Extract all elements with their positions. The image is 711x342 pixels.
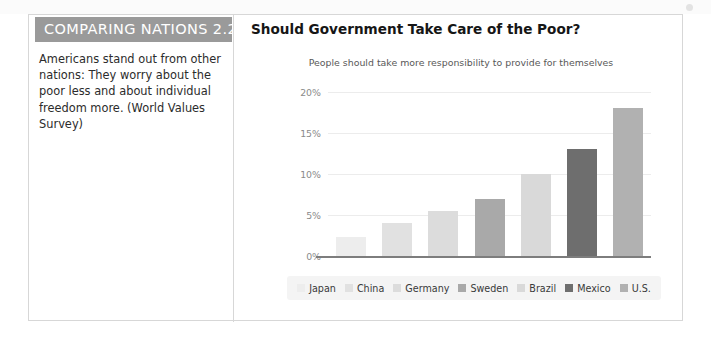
legend-swatch-icon bbox=[517, 284, 525, 292]
x-axis-baseline bbox=[316, 256, 651, 258]
legend-swatch-icon bbox=[458, 284, 466, 292]
legend-swatch-icon bbox=[345, 284, 353, 292]
legend-swatch-icon bbox=[565, 284, 573, 292]
legend-item-mexico[interactable]: Mexico bbox=[565, 283, 611, 294]
y-axis-tick-label: 5% bbox=[306, 210, 321, 221]
gridline bbox=[328, 133, 651, 134]
gridline bbox=[328, 92, 651, 93]
chart-subtitle: People should take more responsibility t… bbox=[276, 57, 646, 70]
legend-swatch-icon bbox=[393, 284, 401, 292]
bar-sweden bbox=[475, 199, 505, 256]
legend-label: Mexico bbox=[577, 283, 611, 294]
legend-swatch-icon bbox=[297, 284, 305, 292]
bar-brazil bbox=[521, 174, 551, 256]
comparing-nations-header: COMPARING NATIONS 2.2 bbox=[35, 17, 232, 42]
bar-u-s bbox=[613, 108, 643, 256]
bar-japan bbox=[336, 237, 366, 256]
legend-label: Germany bbox=[405, 283, 449, 294]
comparing-nations-figure: COMPARING NATIONS 2.2 Americans stand ou… bbox=[28, 14, 683, 321]
legend-item-brazil[interactable]: Brazil bbox=[517, 283, 556, 294]
chart-legend[interactable]: JapanChinaGermanySwedenBrazilMexicoU.S. bbox=[287, 276, 661, 300]
legend-label: China bbox=[357, 283, 384, 294]
page-corner-dot-icon bbox=[686, 4, 693, 11]
legend-label: Sweden bbox=[470, 283, 508, 294]
chart-panel: Should Government Take Care of the Poor?… bbox=[234, 15, 684, 322]
y-axis-tick-label: 15% bbox=[300, 128, 321, 139]
left-text-panel: COMPARING NATIONS 2.2 Americans stand ou… bbox=[29, 15, 233, 322]
legend-label: Brazil bbox=[529, 283, 556, 294]
legend-swatch-icon bbox=[620, 284, 628, 292]
legend-item-china[interactable]: China bbox=[345, 283, 384, 294]
chart-title: Should Government Take Care of the Poor? bbox=[251, 21, 580, 37]
y-axis-tick-label: 10% bbox=[300, 169, 321, 180]
bar-mexico bbox=[567, 149, 597, 256]
plot-area: 0%5%10%15%20% bbox=[328, 92, 651, 256]
comparing-nations-body-text: Americans stand out from other nations: … bbox=[39, 51, 225, 132]
legend-item-sweden[interactable]: Sweden bbox=[458, 283, 508, 294]
legend-label: U.S. bbox=[632, 283, 651, 294]
legend-item-germany[interactable]: Germany bbox=[393, 283, 449, 294]
legend-item-japan[interactable]: Japan bbox=[297, 283, 336, 294]
legend-label: Japan bbox=[309, 283, 336, 294]
bar-germany bbox=[428, 211, 458, 256]
legend-item-u-s[interactable]: U.S. bbox=[620, 283, 651, 294]
gridline bbox=[328, 174, 651, 175]
y-axis-tick-label: 20% bbox=[300, 87, 321, 98]
page-top-band bbox=[0, 0, 711, 14]
bar-china bbox=[382, 223, 412, 256]
